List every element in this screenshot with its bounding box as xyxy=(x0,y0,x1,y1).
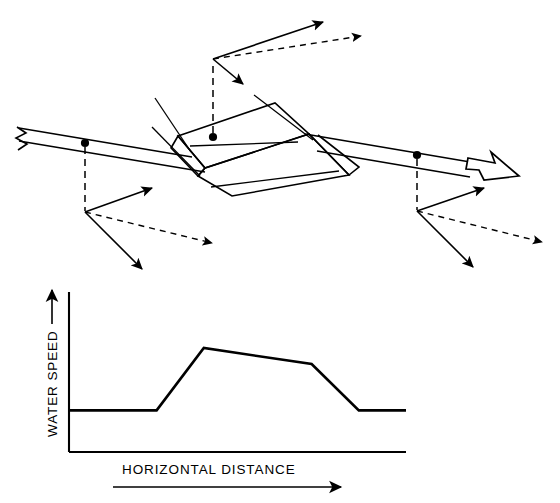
vector-upstream-horizontal xyxy=(85,212,212,243)
y-axis-label: WATER SPEED xyxy=(45,330,60,437)
trapezoidal-sill xyxy=(152,95,359,196)
near-bank-left xyxy=(19,141,205,172)
channel-break-zigzag-left xyxy=(16,127,27,150)
vector-upstream-vertical xyxy=(85,212,142,269)
vector-downstream-vertical xyxy=(417,211,473,267)
sill-apron-toe-line xyxy=(211,171,339,187)
vector-over-sill-vertical xyxy=(213,59,243,84)
vector-downstream-horizontal xyxy=(417,211,542,242)
figure-root: WATER SPEED HORIZONTAL DISTANCE xyxy=(0,0,560,503)
vector-over-sill-resultant xyxy=(213,22,323,59)
channel-banks xyxy=(16,127,519,180)
near-bank-right xyxy=(317,151,470,177)
channel-wall-line-far xyxy=(254,95,313,140)
flow-direction-arrow xyxy=(466,152,519,180)
station-upstream xyxy=(81,139,212,269)
station-over-sill xyxy=(209,22,361,141)
sill-crest-edge-line xyxy=(190,142,298,146)
vector-upstream-resultant xyxy=(85,188,152,212)
water-speed-profile-curve xyxy=(69,348,406,410)
speed-profile-panel: WATER SPEED HORIZONTAL DISTANCE xyxy=(45,290,406,487)
far-bank-left xyxy=(19,128,192,157)
station-over-sill-dot xyxy=(209,133,217,141)
x-axis-label: HORIZONTAL DISTANCE xyxy=(122,462,296,477)
vector-over-sill-horizontal xyxy=(213,36,361,59)
station-upstream-dot xyxy=(81,139,89,147)
vector-downstream-resultant xyxy=(417,188,484,211)
far-bank-right xyxy=(305,134,482,164)
figure-canvas: WATER SPEED HORIZONTAL DISTANCE xyxy=(0,0,560,503)
station-downstream-dot xyxy=(413,151,421,159)
x-axis-label-group: HORIZONTAL DISTANCE xyxy=(113,462,341,487)
flume-perspective-panel xyxy=(16,22,542,269)
y-axis-label-group: WATER SPEED xyxy=(45,290,60,437)
